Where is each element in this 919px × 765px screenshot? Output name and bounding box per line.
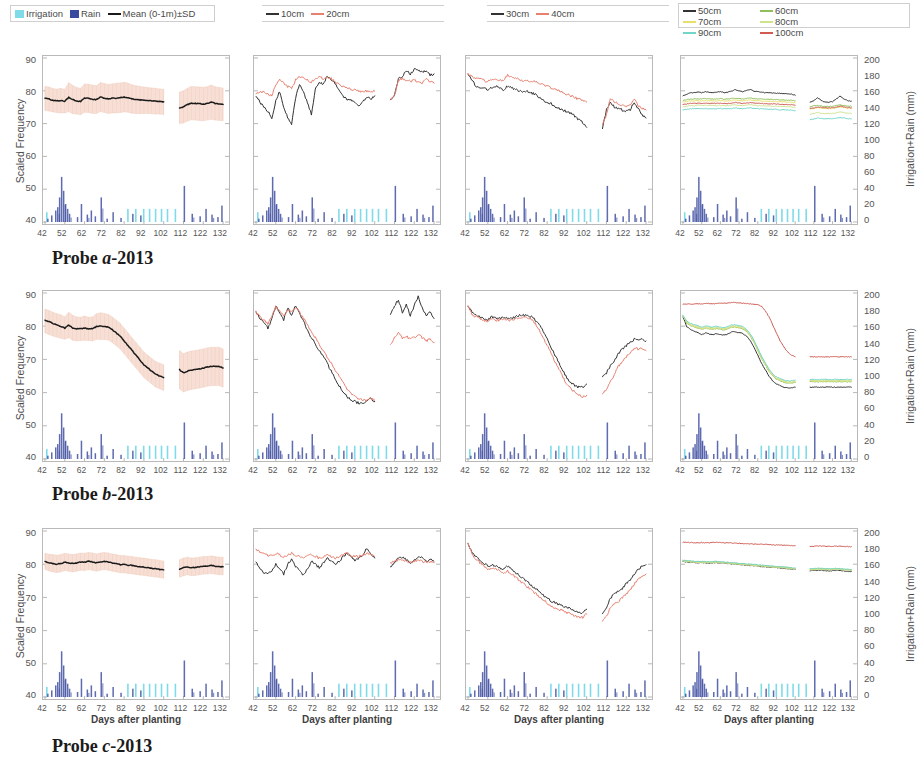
y-tick-left: 90 (14, 54, 36, 65)
x-tick: 62 (283, 228, 303, 238)
chart-probe-b-10-20cm (254, 291, 440, 461)
y-tick-right: 0 (864, 689, 890, 700)
legend-item-70cm[interactable]: 70cm (683, 16, 753, 27)
y-tick-right: 120 (864, 354, 890, 365)
x-ticks-r2c3: 425262728292102112122132 (465, 465, 653, 475)
chart-probe-b-30-40cm (466, 291, 652, 461)
x-tick: 112 (801, 703, 821, 713)
probe-label-a-suffix: -2013 (111, 248, 153, 268)
x-tick: 52 (263, 228, 283, 238)
legend-line-icon (683, 10, 696, 12)
legend-item-irrigation[interactable]: Irrigation (15, 8, 63, 19)
legend-item-mean-0-1m-sd[interactable]: Mean (0-1m)±SD (108, 8, 196, 19)
legend-line-icon (683, 32, 696, 34)
legend-label: 10cm (281, 8, 304, 19)
panel-probe-c-mean (42, 528, 230, 700)
chart-probe-b-50-100cm (681, 291, 857, 461)
y-tick-right: 180 (864, 70, 890, 81)
x-tick: 72 (726, 228, 746, 238)
x-tick: 102 (574, 465, 594, 475)
y-tick-right: 120 (864, 592, 890, 603)
x-tick: 62 (707, 465, 727, 475)
x-tick: 122 (190, 465, 210, 475)
x-tick: 52 (475, 703, 495, 713)
x-tick: 82 (534, 703, 554, 713)
y-tick-left: 80 (14, 559, 36, 570)
x-tick: 82 (745, 228, 765, 238)
legend-item-60cm[interactable]: 60cm (760, 5, 830, 16)
y-tick-right: 140 (864, 338, 890, 349)
x-tick: 102 (362, 228, 382, 238)
y-tick-left: 60 (14, 150, 36, 161)
x-tick: 112 (170, 228, 190, 238)
panel-probe-c-50-100cm (680, 528, 858, 700)
panel-probe-b-10-20cm (253, 290, 441, 462)
x-tick: 82 (111, 703, 131, 713)
y-tick-left: 70 (14, 354, 36, 365)
legend-item-10cm[interactable]: 10cm (266, 8, 304, 19)
x-tick: 52 (475, 228, 495, 238)
legend-item-20cm[interactable]: 20cm (311, 8, 349, 19)
legend-item-50cm[interactable]: 50cm (683, 5, 753, 16)
y-axis-label-left-row2: Scaled Frequency (14, 328, 26, 428)
x-tick: 122 (190, 703, 210, 713)
x-tick: 132 (838, 228, 858, 238)
x-tick: 42 (32, 703, 52, 713)
legend-line-icon (108, 13, 121, 15)
x-tick: 42 (670, 465, 690, 475)
y-tick-right: 100 (864, 134, 890, 145)
y-tick-right: 120 (864, 118, 890, 129)
x-axis-label-c2: Days after planting (253, 714, 441, 725)
legend-column-1: IrrigationRainMean (0-1m)±SD (10, 5, 215, 22)
y-tick-right: 140 (864, 576, 890, 587)
legend-item-100cm[interactable]: 100cm (760, 27, 830, 38)
legend-item-30cm[interactable]: 30cm (491, 8, 529, 19)
y-tick-right: 20 (864, 673, 890, 684)
legend-label: 40cm (551, 8, 574, 19)
x-tick: 92 (763, 703, 783, 713)
x-tick: 52 (52, 228, 72, 238)
legend-column-3: 30cm40cm (487, 5, 669, 22)
x-tick: 82 (534, 465, 554, 475)
x-tick: 102 (782, 228, 802, 238)
x-tick: 132 (633, 228, 653, 238)
legend-item-rain[interactable]: Rain (70, 8, 101, 19)
legend-item-90cm[interactable]: 90cm (683, 27, 753, 38)
legend-item-40cm[interactable]: 40cm (536, 8, 574, 19)
y-tick-right: 40 (864, 182, 890, 193)
y-axis-label-right-row2: Irrigation+Rain (mm) (904, 306, 916, 446)
y-tick-right: 160 (864, 559, 890, 570)
x-tick: 122 (613, 703, 633, 713)
panel-probe-b-50-100cm (680, 290, 858, 462)
x-tick: 42 (670, 228, 690, 238)
chart-probe-a-mean (43, 56, 229, 224)
x-tick: 92 (131, 703, 151, 713)
x-axis-label-c4: Days after planting (680, 714, 858, 725)
x-tick: 62 (283, 465, 303, 475)
x-tick: 102 (362, 703, 382, 713)
x-tick: 42 (32, 228, 52, 238)
y-tick-right: 80 (864, 624, 890, 635)
y-tick-left: 40 (14, 214, 36, 225)
x-tick: 52 (52, 703, 72, 713)
y-tick-left: 60 (14, 624, 36, 635)
x-tick: 132 (210, 465, 230, 475)
x-tick: 52 (475, 465, 495, 475)
x-tick: 92 (554, 703, 574, 713)
panel-probe-a-10-20cm (253, 55, 441, 225)
x-tick: 122 (401, 703, 421, 713)
y-axis-label-right-row3: Irrigation+Rain (mm) (904, 544, 916, 684)
legend-line-icon (536, 13, 549, 15)
x-tick: 112 (170, 703, 190, 713)
x-tick: 62 (72, 703, 92, 713)
x-tick: 112 (381, 465, 401, 475)
legend-line-icon (683, 21, 696, 23)
x-tick: 42 (670, 703, 690, 713)
panel-probe-b-mean (42, 290, 230, 462)
x-tick: 62 (72, 228, 92, 238)
legend-item-80cm[interactable]: 80cm (760, 16, 830, 27)
legend-line-icon (760, 21, 773, 23)
x-tick: 82 (322, 703, 342, 713)
x-tick: 62 (495, 228, 515, 238)
y-tick-left: 80 (14, 86, 36, 97)
